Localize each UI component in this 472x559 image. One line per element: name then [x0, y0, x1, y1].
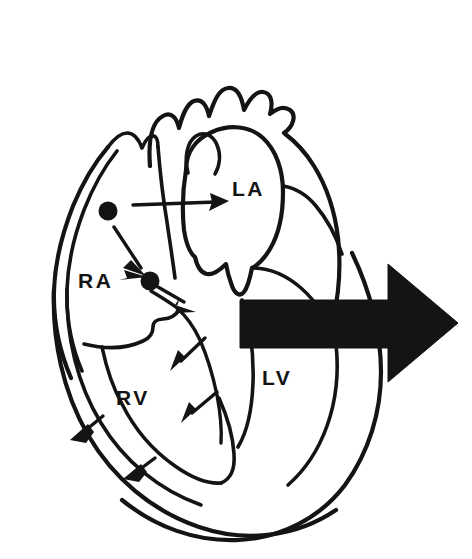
right-atrium-inner-border	[67, 151, 117, 371]
interatrial-septum	[158, 147, 175, 278]
interatrial-tract	[133, 202, 216, 205]
right-atrium-outer-border	[54, 147, 108, 378]
label-right-atrium: RA	[78, 269, 113, 292]
heart-diagram-svg: RA RV LA LV	[0, 0, 472, 559]
right-bundle-branch	[158, 287, 184, 302]
right-ventricle-wall	[102, 347, 221, 483]
right-atrium-floor	[84, 309, 180, 347]
bundle-of-his	[151, 291, 221, 443]
label-left-atrium: LA	[232, 177, 265, 200]
blood-ejection-arrow	[240, 264, 458, 382]
internodal-tract	[114, 227, 141, 268]
purkinje-branch-lower	[192, 392, 217, 413]
label-right-ventricle: RV	[116, 386, 150, 409]
left-atrial-appendage	[186, 134, 219, 174]
sa-node-dot	[99, 202, 118, 221]
label-left-ventricle: LV	[262, 366, 292, 389]
left-ventricle-lower-contour	[288, 344, 337, 485]
heart-conduction-figure: RA RV LA LV	[0, 0, 472, 559]
interatrial-arrowhead	[209, 193, 229, 211]
